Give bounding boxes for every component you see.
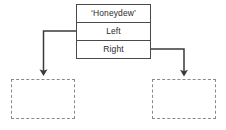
node-value-row: ‘Honeydew’ <box>77 5 150 22</box>
right-pointer-edge <box>151 49 184 73</box>
diagram-canvas: ‘Honeydew’ Left Right <box>0 0 226 130</box>
left-pointer-edge <box>44 31 77 73</box>
node-right-pointer-row: Right <box>77 40 150 58</box>
right-child-placeholder[interactable] <box>152 79 216 119</box>
node-record[interactable]: ‘Honeydew’ Left Right <box>76 4 151 59</box>
node-left-pointer-row: Left <box>77 22 150 40</box>
left-child-placeholder[interactable] <box>11 79 75 119</box>
